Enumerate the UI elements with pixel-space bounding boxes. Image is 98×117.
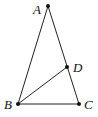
triangle-diagram: A B C D: [0, 0, 98, 117]
segment-bd: [18, 67, 67, 104]
label-d: D: [72, 60, 83, 75]
label-a: A: [32, 2, 41, 17]
segment-ab: [18, 6, 48, 104]
point-d: [65, 65, 69, 69]
segment-ac: [48, 6, 79, 104]
point-b: [16, 102, 20, 106]
point-a: [46, 4, 50, 8]
point-c: [77, 102, 81, 106]
label-b: B: [4, 97, 12, 112]
label-c: C: [84, 97, 93, 112]
